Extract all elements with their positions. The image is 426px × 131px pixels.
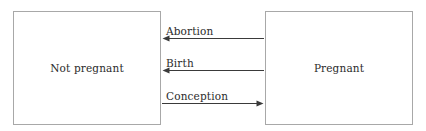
transition-birth: Birth	[162, 49, 264, 75]
arrow-left-icon	[162, 66, 264, 75]
state-box-pregnant: Pregnant	[265, 11, 413, 125]
arrow-right-icon	[162, 99, 264, 108]
state-box-not-pregnant: Not pregnant	[13, 11, 161, 125]
transition-abortion: Abortion	[162, 17, 264, 43]
state-label-not-pregnant: Not pregnant	[50, 62, 124, 74]
transition-conception: Conception	[162, 82, 264, 108]
state-transition-diagram: Not pregnant Pregnant Abortion Birth Con…	[0, 0, 426, 131]
arrow-left-icon	[162, 34, 264, 43]
state-label-pregnant: Pregnant	[314, 62, 364, 74]
